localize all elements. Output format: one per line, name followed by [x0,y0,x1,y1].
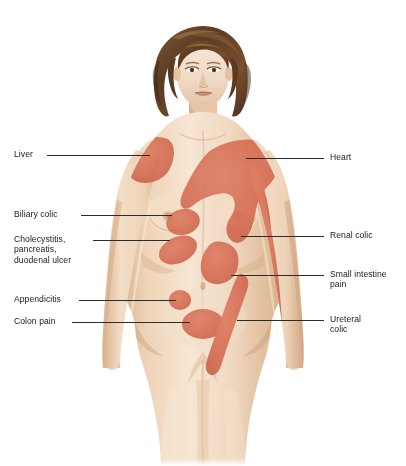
label-renal-colic: Renal colic [330,230,373,240]
referred-pain-illustration: Liver Biliary colic Cholecystitis, pancr… [0,0,406,466]
label-biliary-colic: Biliary colic [14,209,58,219]
label-cholecystitis: Cholecystitis, pancreatis, duodenal ulce… [14,234,71,265]
label-small-intestine: Small intestine pain [330,269,387,290]
leader-line-colon-pain [72,322,190,323]
leader-line-biliary-colic [81,215,172,216]
label-heart: Heart [330,152,351,162]
leader-line-renal-colic [241,236,324,237]
leader-line-cholecystitis [93,240,170,241]
leader-line-ureteral-colic [237,320,324,321]
label-appendicitis: Appendicitis [14,294,61,304]
leader-line-appendicitis [79,300,176,301]
label-colon-pain: Colon pain [14,316,56,326]
leader-line-liver [47,155,150,156]
label-liver: Liver [14,149,33,159]
leader-line-small-intestine [231,275,324,276]
label-ureteral-colic: Ureteral colic [330,314,361,335]
leader-line-heart [246,158,324,159]
